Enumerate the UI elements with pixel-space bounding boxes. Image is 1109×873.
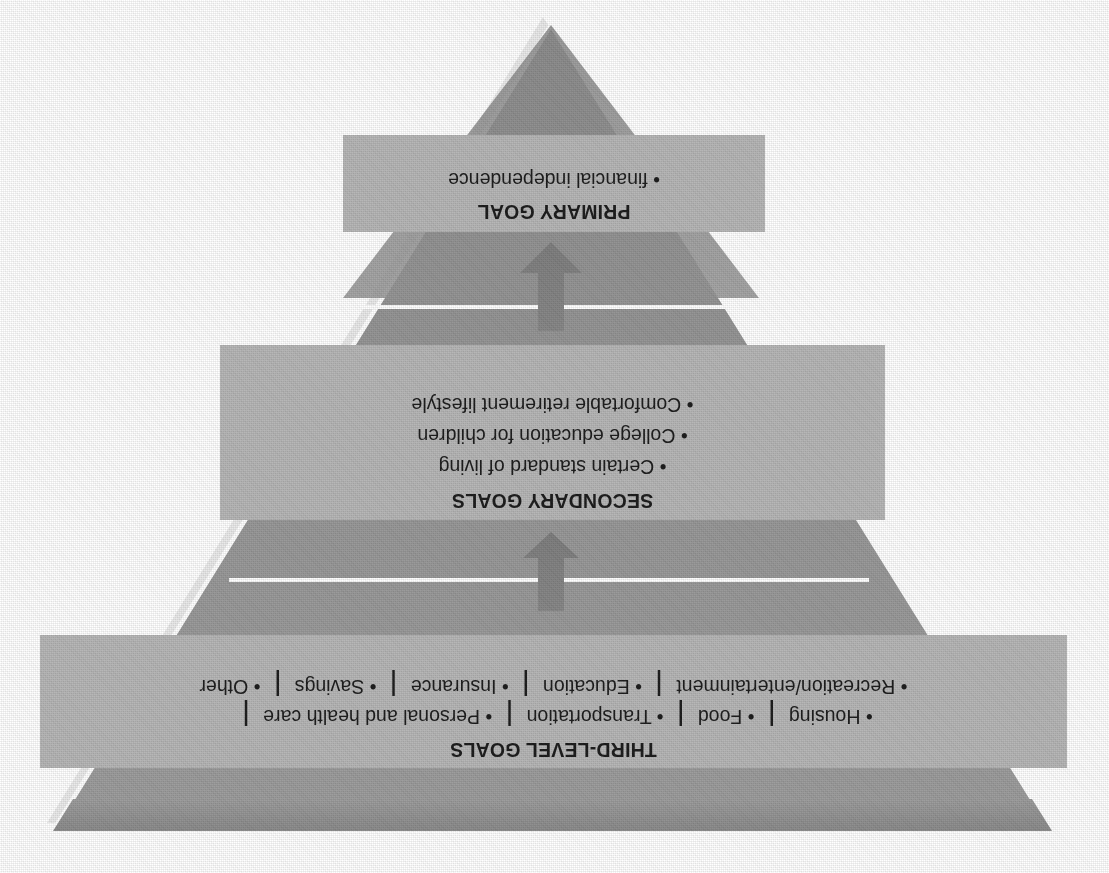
heading-primary-goal: PRIMARY GOAL — [478, 200, 631, 223]
bullets-third-level-goals: • Housing | • Food | • Transportation | — [200, 672, 908, 732]
bullets-secondary-goals: • Certain standard of living • College e… — [411, 389, 693, 482]
bullet-char: • — [748, 706, 755, 728]
heading-secondary-goals: SECONDARY GOALS — [452, 489, 653, 512]
bullet-item: • Education — [538, 676, 642, 698]
bullet-line: • Comfortable retirement lifestyle — [411, 389, 693, 420]
funnel-artwork-rotated: THIRD-LEVEL GOALS • Housing | • Food | • — [0, 0, 1109, 873]
bullet-item: • Insurance — [405, 676, 508, 698]
bullet-label: Transportation — [527, 706, 652, 728]
bullet-item: • Housing — [783, 706, 872, 728]
bullet-label: Personal and health care — [263, 706, 480, 728]
bullet-label: Food — [698, 706, 742, 728]
bullet-item: • Food — [692, 706, 754, 728]
bullet-label: Housing — [789, 706, 861, 728]
bullet-char: • — [370, 676, 377, 698]
panel-third-level-goals: THIRD-LEVEL GOALS • Housing | • Food | • — [40, 635, 1067, 768]
bullet-char: • — [485, 706, 492, 728]
bullet-label: College education for children — [417, 425, 675, 447]
heading-third-level-goals: THIRD-LEVEL GOALS — [450, 738, 657, 761]
bullet-label: Recreation/entertainment — [676, 676, 895, 698]
bullet-label: Comfortable retirement lifestyle — [411, 394, 681, 416]
bullet-char: • — [653, 169, 660, 191]
bullet-char: • — [681, 425, 688, 447]
bullet-line: • College education for children — [411, 420, 693, 451]
bullet-item: • Savings — [289, 676, 376, 698]
bullet-line: • Housing | • Food | • Transportation | — [200, 702, 908, 732]
bullet-line: • Certain standard of living — [411, 451, 693, 482]
bullet-char: • — [901, 676, 908, 698]
bullet-label: Insurance — [411, 676, 497, 698]
bullet-line: • financial independence — [448, 165, 660, 194]
panel-primary-goal: PRIMARY GOAL • financial independence — [343, 135, 765, 232]
bullet-label: Savings — [295, 676, 364, 698]
separator-pipe: | — [760, 694, 783, 738]
bullet-line: • Recreation/entertainment | • Education… — [200, 672, 908, 702]
separator-pipe: | — [382, 664, 405, 708]
bullet-char: • — [687, 394, 694, 416]
separator-pipe: | — [647, 664, 670, 708]
bullet-char: • — [635, 676, 642, 698]
bullet-label: Certain standard of living — [439, 456, 655, 478]
bullets-primary-goal: • financial independence — [448, 165, 660, 194]
bullet-char: • — [660, 456, 667, 478]
separator-pipe: | — [669, 694, 692, 738]
bullet-char: • — [866, 706, 873, 728]
bullet-label: financial independence — [448, 169, 648, 191]
separator-pipe: | — [266, 664, 289, 708]
diagram-canvas: THIRD-LEVEL GOALS • Housing | • Food | • — [0, 0, 1109, 873]
bullet-item: • Personal and health care — [258, 706, 493, 728]
funnel-top-band — [53, 799, 1052, 831]
bullet-item: • Recreation/entertainment — [671, 676, 908, 698]
separator-pipe: | — [234, 694, 257, 738]
bullet-item: • Transportation — [521, 706, 663, 728]
bullet-label: Education — [543, 676, 630, 698]
separator-pipe: | — [514, 664, 537, 708]
bullet-char: • — [657, 706, 664, 728]
panel-secondary-goals: SECONDARY GOALS • Certain standard of li… — [220, 345, 885, 520]
